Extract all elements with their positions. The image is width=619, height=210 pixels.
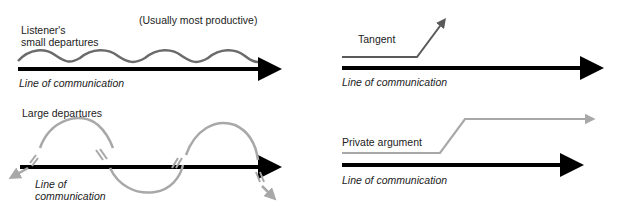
productive-note: (Usually most productive) xyxy=(139,14,257,26)
axis-label: Line of communication xyxy=(19,77,124,89)
small-departures-label-1: Listener's xyxy=(21,24,66,36)
axis-label-2: communication xyxy=(35,190,106,202)
diagram-canvas xyxy=(0,0,619,210)
axis-label: Line of communication xyxy=(342,76,447,88)
tangent-panel xyxy=(342,22,592,68)
tangent-label: Tangent xyxy=(358,33,395,45)
axis-label: Line of communication xyxy=(342,174,447,186)
large-departures-label: Large departures xyxy=(22,107,102,119)
private-argument-label: Private argument xyxy=(342,136,422,148)
small-departures-wave xyxy=(18,50,258,62)
axis-label-1: Line of xyxy=(35,178,67,190)
small-departures-panel xyxy=(18,50,270,69)
large-departures-wave xyxy=(40,118,113,148)
small-departures-label-2: small departures xyxy=(21,36,99,48)
